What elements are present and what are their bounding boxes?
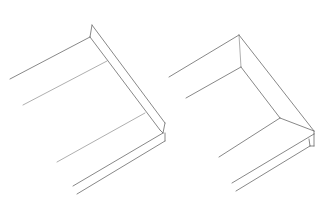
background	[0, 0, 325, 215]
trim-profile-diagram	[0, 0, 325, 215]
